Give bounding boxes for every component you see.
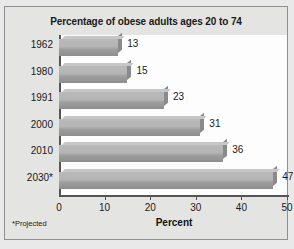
- x-tick-label: 30: [190, 202, 201, 213]
- bar-row: 199123: [5, 88, 289, 115]
- bar-top-face: [62, 169, 280, 172]
- bar-value-label: 47: [282, 171, 293, 182]
- category-label-1980: 1980: [5, 66, 53, 77]
- bar-row: 2030*47: [5, 168, 289, 195]
- bar-value-label: 13: [127, 38, 138, 49]
- bar-face: [59, 92, 164, 109]
- bar-top-face: [62, 116, 207, 119]
- bar-face: [59, 66, 127, 83]
- x-tick: [150, 195, 151, 200]
- bar-top-face: [62, 89, 171, 92]
- bar-face: [59, 145, 223, 162]
- bar-row: 200031: [5, 115, 289, 142]
- x-tick: [241, 195, 242, 200]
- bar-top-face: [62, 63, 134, 66]
- bar: [59, 66, 127, 83]
- bar: [59, 39, 118, 56]
- bar-top-face: [62, 142, 230, 145]
- bar-row: 198015: [5, 62, 289, 89]
- x-tick-label: 20: [145, 202, 156, 213]
- category-label-1991: 1991: [5, 92, 53, 103]
- bar: [59, 145, 223, 162]
- category-label-1962: 1962: [5, 39, 53, 50]
- bar-top-face: [62, 36, 125, 39]
- bar: [59, 119, 200, 136]
- bar-row: 201036: [5, 141, 289, 168]
- category-label-2030-projected: 2030*: [5, 172, 53, 183]
- x-axis-line: [59, 195, 289, 197]
- x-tick-label: 40: [236, 202, 247, 213]
- x-tick: [105, 195, 106, 200]
- chart-panel: Percentage of obese adults ages 20 to 74…: [4, 6, 288, 240]
- footnote: *Projected: [12, 219, 47, 228]
- category-label-2010: 2010: [5, 145, 53, 156]
- bar-row: 196213: [5, 35, 289, 62]
- bar-value-label: 15: [136, 65, 147, 76]
- bar-face: [59, 39, 118, 56]
- bar-value-label: 36: [232, 144, 243, 155]
- x-tick-label: 0: [56, 202, 62, 213]
- x-tick: [287, 195, 288, 200]
- x-tick-label: 10: [99, 202, 110, 213]
- x-tick-label: 50: [281, 202, 292, 213]
- bar-value-label: 31: [209, 118, 220, 129]
- x-tick: [196, 195, 197, 200]
- bar: [59, 172, 273, 189]
- x-axis-title: Percent: [59, 217, 289, 228]
- bar-value-label: 23: [173, 91, 184, 102]
- category-label-2000: 2000: [5, 119, 53, 130]
- bar-face: [59, 119, 200, 136]
- bar: [59, 92, 164, 109]
- chart-title: Percentage of obese adults ages 20 to 74: [5, 16, 287, 27]
- bar-face: [59, 172, 273, 189]
